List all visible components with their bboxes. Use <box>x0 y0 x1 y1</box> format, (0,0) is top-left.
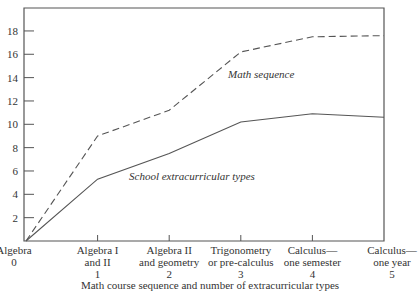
y-axis: 24681012141618 <box>7 25 34 224</box>
plot-border <box>24 8 384 241</box>
y-tick-label: 16 <box>7 48 19 60</box>
x-tick-label: one year <box>373 256 411 268</box>
series-label-math-sequence: Math sequence <box>227 68 294 80</box>
x-tick-label: 5 <box>389 268 395 280</box>
y-tick-label: 2 <box>13 212 19 224</box>
y-tick-label: 4 <box>13 188 19 200</box>
plot-frame <box>24 8 384 241</box>
x-tick-label: 0 <box>11 256 17 268</box>
y-tick-label: 10 <box>7 118 19 130</box>
x-tick-label: Algebra I <box>77 244 119 256</box>
y-tick-label: 14 <box>7 72 19 84</box>
line-chart: 24681012141618 Algebra0Algebra Iand II1A… <box>0 0 418 296</box>
y-tick-label: 18 <box>7 25 19 37</box>
x-tick-label: Trigonometry <box>210 244 271 256</box>
x-tick-label: Calculus— <box>367 244 417 256</box>
x-tick-label: and II <box>85 256 111 268</box>
x-tick-label: or pre-calculus <box>208 256 274 268</box>
x-axis: Algebra0Algebra Iand II1Algebra IIand ge… <box>0 235 418 280</box>
y-tick-label: 6 <box>13 165 19 177</box>
y-tick-label: 8 <box>13 142 19 154</box>
x-axis-title: Math course sequence and number of extra… <box>81 279 339 291</box>
x-tick-label: one semester <box>284 256 341 268</box>
x-tick-label: Calculus— <box>288 244 338 256</box>
y-tick-label: 12 <box>7 95 18 107</box>
series-labels: Math sequence School extracurricular typ… <box>129 68 294 182</box>
x-tick-label: Algebra II <box>146 244 192 256</box>
series-label-extracurricular: School extracurricular types <box>129 170 255 182</box>
x-tick-label: Algebra <box>0 244 32 256</box>
x-tick-label: and geometry <box>139 256 200 268</box>
data-series <box>26 36 384 241</box>
